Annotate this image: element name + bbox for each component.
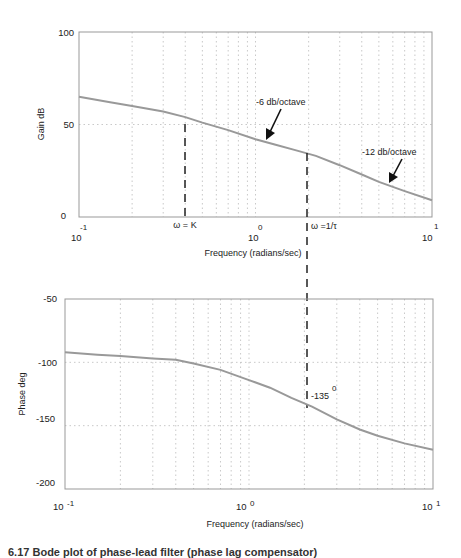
gain-xtick-exp-m1: -1 [80, 223, 88, 232]
gain-xtick-exp-0: 0 [258, 223, 263, 232]
omega-k-label: ω = K [173, 220, 196, 230]
phase-grid [65, 299, 433, 489]
phase-ylabel: Phase deg [17, 372, 27, 415]
gain-xlabel: Frequency (radians/sec) [204, 248, 301, 258]
gain-xtick-base-m1: 10 [71, 232, 82, 243]
gain-ylabel: Gain dB [36, 108, 46, 141]
phase-xlabel: Frequency (radians/sec) [206, 519, 303, 529]
phase-135-degree: 0 [332, 384, 337, 393]
slope-6db-label: -6 db/octave [256, 97, 306, 107]
gain-grid [79, 32, 432, 217]
slope-12db-arrow-icon [393, 159, 402, 176]
slope-6db-arrow-icon [270, 109, 281, 132]
slope-12db-label: -12 db/octave [362, 147, 417, 157]
phase-tick-m50: -50 [43, 293, 57, 304]
gain-tick-100: 100 [58, 27, 74, 38]
gain-xtick-base-1: 10 [422, 232, 433, 243]
figure-caption: 6.17 Bode plot of phase-lead filter (pha… [8, 546, 317, 558]
phase-xtick-base-1: 10 [422, 501, 433, 512]
phase-xtick-exp-m1: -1 [67, 499, 75, 508]
gain-plot: 100 50 0 Gain dB 10 -1 10 0 10 1 Frequen… [36, 27, 439, 408]
phase-xtick-base-0: 10 [236, 501, 247, 512]
phase-xtick-exp-1: 1 [436, 499, 441, 508]
phase-tick-m200: -200 [36, 477, 55, 488]
phase-xtick-base-m1: 10 [53, 501, 64, 512]
gain-xtick-base-0: 10 [248, 232, 259, 243]
phase-xtick-exp-0: 0 [250, 499, 255, 508]
phase-plot: -50 -100 -150 -200 Phase deg 10 -1 10 0 … [17, 293, 441, 529]
gain-xtick-exp-1: 1 [434, 222, 439, 231]
phase-tick-m100: -100 [38, 357, 57, 368]
omega-tau-label: ω =1/τ [311, 221, 337, 231]
phase-tick-m150: -150 [36, 413, 55, 424]
gain-tick-50: 50 [63, 119, 74, 130]
phase-135-label: -135 [311, 391, 329, 401]
gain-tick-0: 0 [61, 210, 66, 221]
